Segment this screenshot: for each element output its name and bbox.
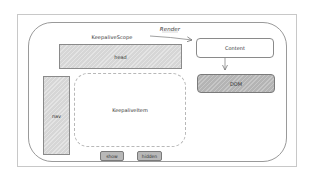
- render-label: Render: [160, 26, 180, 32]
- show-button-label: show: [106, 154, 118, 159]
- nav-box: nav: [43, 76, 70, 155]
- keepalive-scope-label: KeepaliveScope: [92, 34, 133, 40]
- head-box: head: [59, 44, 182, 69]
- head-label: head: [114, 54, 126, 60]
- hidden-button-label: hidden: [142, 154, 157, 159]
- diagram-canvas: KeepaliveScope Render head Content DOM n…: [0, 0, 313, 180]
- nav-label: nav: [52, 113, 61, 119]
- content-box: Content: [196, 38, 274, 58]
- content-label: Content: [225, 45, 245, 51]
- dom-label: DOM: [230, 81, 242, 87]
- keepalive-item-label: KeepaliveItem: [112, 107, 148, 113]
- dom-box: DOM: [197, 74, 275, 93]
- show-button[interactable]: show: [100, 151, 124, 161]
- keepalive-item-box: KeepaliveItem: [74, 73, 186, 147]
- hidden-button[interactable]: hidden: [137, 151, 162, 161]
